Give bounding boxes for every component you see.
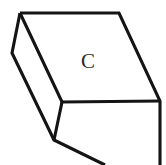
figure-canvas: C <box>0 0 166 165</box>
cube-face-front <box>54 101 160 165</box>
face-label-c: C <box>81 49 95 73</box>
cube-diagram: C <box>0 0 166 165</box>
